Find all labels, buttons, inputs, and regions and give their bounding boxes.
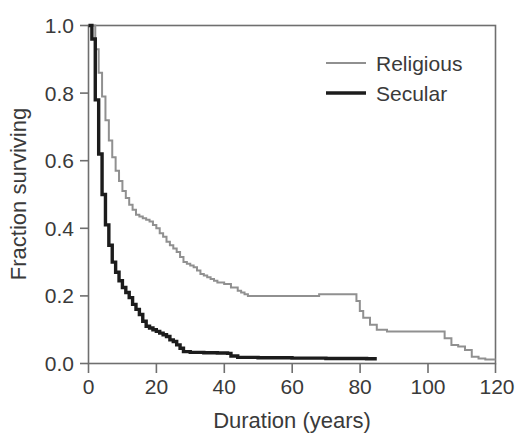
survival-curve-figure: 1.0 0.8 0.6 0.4 0.2 0.0 0 20 40 60 80 10… <box>0 0 523 440</box>
y-tick-label: 1.0 <box>45 14 74 37</box>
y-tick-label: 0.0 <box>45 352 74 375</box>
x-tick-label: 80 <box>348 375 371 398</box>
y-tick-label: 0.4 <box>45 217 75 240</box>
chart-svg: 1.0 0.8 0.6 0.4 0.2 0.0 0 20 40 60 80 10… <box>0 0 523 440</box>
x-tick-label: 120 <box>479 375 514 398</box>
y-axis-title: Fraction surviving <box>6 108 31 280</box>
x-tick-label: 100 <box>410 375 445 398</box>
x-axis-title: Duration (years) <box>213 408 371 433</box>
y-tick-label: 0.8 <box>45 82 74 105</box>
legend-label-secular: Secular <box>376 82 447 105</box>
legend-label-religious: Religious <box>376 52 462 75</box>
y-tick-label: 0.2 <box>45 284 74 307</box>
x-tick-label: 60 <box>281 375 304 398</box>
x-tick-label: 40 <box>213 375 236 398</box>
y-tick-label: 0.6 <box>45 149 74 172</box>
x-tick-label: 0 <box>83 375 95 398</box>
x-tick-label: 20 <box>145 375 168 398</box>
